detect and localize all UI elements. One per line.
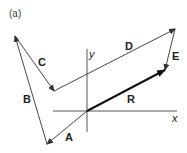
vector-a-label: A bbox=[65, 131, 73, 143]
figure-caption: (a) bbox=[9, 8, 21, 19]
x-axis-label: x bbox=[171, 112, 178, 124]
vector-c-label: C bbox=[38, 56, 46, 68]
y-axis-label: y bbox=[88, 48, 96, 60]
vector-e-label: E bbox=[172, 50, 179, 62]
vector-b-arrow bbox=[15, 36, 47, 144]
vector-d-label: D bbox=[125, 40, 133, 52]
vector-d-arrow bbox=[54, 29, 175, 91]
vector-b-label: B bbox=[23, 93, 31, 105]
vector-addition-diagram: (a) x y A B C D E R bbox=[0, 0, 187, 153]
vector-r-label: R bbox=[127, 93, 135, 105]
vector-c-arrow bbox=[15, 36, 54, 91]
vector-r-resultant-arrow bbox=[87, 70, 165, 111]
